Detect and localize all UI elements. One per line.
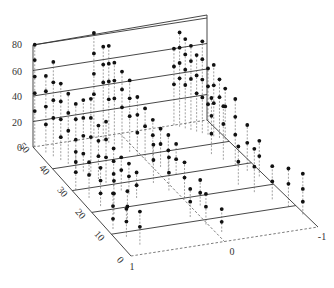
stem-marker (220, 207, 224, 211)
stem-marker (112, 147, 116, 151)
stem-marker (183, 176, 187, 180)
stem-marker (270, 180, 274, 184)
stem-marker (183, 37, 187, 41)
stem-marker (212, 101, 216, 105)
stem-marker (200, 78, 204, 82)
stem-marker (101, 45, 105, 49)
stem-marker (128, 114, 132, 118)
stem-marker (112, 179, 116, 183)
stem-marker (107, 97, 111, 101)
stem-marker (44, 74, 48, 78)
y-tick-label: 10 (92, 228, 107, 243)
stem-marker (195, 91, 199, 95)
stem-marker (233, 97, 237, 101)
stem-marker (151, 143, 155, 147)
y-tick-label: 0 (115, 254, 127, 265)
z-tick-label: 80 (12, 39, 22, 50)
stem-marker (178, 76, 182, 80)
stem-marker (188, 200, 192, 204)
stem-marker (135, 183, 139, 187)
stem-marker (166, 133, 170, 137)
stem-marker (119, 155, 123, 159)
stem-marker (151, 118, 155, 122)
stem-marker (172, 82, 176, 86)
stem-marker (218, 95, 222, 99)
stem-marker (195, 74, 199, 78)
x-tick-label: 0 (230, 246, 235, 257)
stem-marker (74, 138, 78, 142)
stem-marker (257, 139, 261, 143)
stem-marker (287, 167, 291, 171)
stem-marker (233, 115, 237, 119)
stem-marker (301, 187, 305, 191)
stem-marker (210, 96, 214, 100)
stem-marker (128, 96, 132, 100)
stem-marker (104, 120, 108, 124)
floor-gridline (53, 141, 230, 168)
stem-marker (51, 60, 55, 64)
stem-marker (89, 116, 93, 120)
stem-marker (101, 81, 105, 85)
stem-marker (112, 172, 116, 176)
stem-marker (200, 57, 204, 61)
stem-marker (198, 178, 202, 182)
stem-marker (206, 102, 210, 106)
stem-marker (236, 160, 240, 164)
stem-marker (233, 133, 237, 137)
stem-marker (120, 105, 124, 109)
stem-marker (189, 59, 193, 63)
stem-marker (59, 82, 63, 86)
stem-marker (167, 155, 171, 159)
stem-marker (204, 205, 208, 209)
stem-marker (44, 105, 48, 109)
stem-marker (59, 117, 63, 121)
stem-marker (33, 91, 37, 95)
stem-marker (92, 52, 96, 56)
stem-marker (59, 100, 63, 104)
stem-marker (174, 142, 178, 146)
stem-marker (252, 147, 256, 151)
stem-marker (210, 132, 214, 136)
stem-marker (74, 117, 78, 121)
stem-marker (33, 109, 37, 113)
stem-marker (135, 171, 139, 175)
stem-marker (66, 92, 70, 96)
stem-marker (33, 43, 37, 47)
stem-marker (112, 79, 116, 83)
stem-marker (252, 165, 256, 169)
stem-marker (97, 154, 101, 158)
back-wall-frame (33, 15, 207, 147)
stem-marker (223, 87, 227, 91)
stem-marker (189, 44, 193, 48)
x-tick-label: 1 (130, 261, 135, 272)
stem-marker (74, 170, 78, 174)
stem-marker (112, 159, 116, 163)
stem-marker (206, 84, 210, 88)
stem-marker (183, 52, 187, 56)
stem-marker (236, 145, 240, 149)
stem-marker (97, 124, 101, 128)
stem-marker (120, 70, 124, 74)
stem-marker (167, 171, 171, 175)
stem-marker (92, 92, 96, 96)
stem-marker (87, 173, 91, 177)
y-tick-label: 30 (55, 184, 70, 199)
stem-marker (172, 65, 176, 69)
stem-marker (99, 191, 103, 195)
stem-marker (204, 192, 208, 196)
stem-marker (33, 75, 37, 79)
stem-marker (151, 133, 155, 137)
stem-marker (166, 148, 170, 152)
stem-marker (151, 158, 155, 162)
stem-marker (125, 220, 129, 224)
stem-marker (51, 116, 55, 120)
stem-marker (135, 131, 139, 135)
stem-marker (200, 96, 204, 100)
x-tick-label: -1 (318, 231, 326, 242)
stem-marker (159, 142, 163, 146)
stem-marker (44, 123, 48, 127)
stem-marker (221, 104, 225, 108)
stem-marker (220, 220, 224, 224)
stem-marker (120, 88, 124, 92)
stem-marker (104, 155, 108, 159)
